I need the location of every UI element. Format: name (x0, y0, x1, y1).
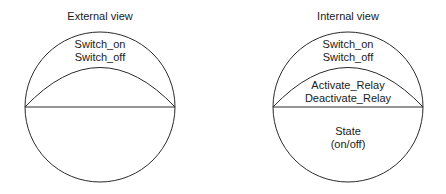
internal-label-state-values: (on/off) (331, 138, 366, 151)
external-label-switch-off: Switch_off (75, 51, 126, 64)
internal-label-switch-on: Switch_on (323, 38, 374, 51)
internal-label-deactivate-relay: Deactivate_Relay (305, 92, 391, 105)
internal-label-state: State (335, 125, 361, 138)
external-label-switch-on: Switch_on (75, 38, 126, 51)
external-interface-arc (25, 68, 175, 108)
internal-label-activate-relay: Activate_Relay (311, 79, 384, 92)
internal-view-title: Internal view (317, 10, 379, 23)
external-view-title: External view (67, 10, 132, 23)
internal-label-switch-off: Switch_off (323, 51, 374, 64)
